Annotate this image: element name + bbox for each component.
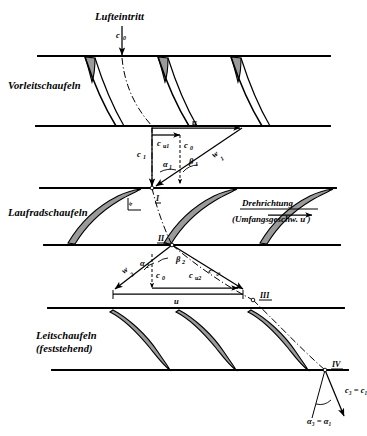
inlet-annotation: Lufteintritt c 0 <box>94 11 145 55</box>
streamline-segment-inlet <box>122 58 152 126</box>
triangle2-cu2-subscript: u2 <box>195 275 201 281</box>
label-leitschaufeln: Leitschaufeln <box>35 330 97 341</box>
triangle2-beta-arc <box>158 258 168 262</box>
triangle2-c0-subscript: 0 <box>162 275 165 281</box>
station-label-II: II <box>157 234 165 243</box>
stator-blade <box>176 310 236 370</box>
exit-c3-label: c₃ = c₁ <box>345 385 367 395</box>
inlet-guide-vane <box>231 57 270 126</box>
exit-velocity-annotation: c₃ = c₁ α₃ = α₁ <box>307 370 367 426</box>
exit-angle-arc <box>316 400 331 404</box>
label-leitschaufeln-feststehend: (feststehend) <box>36 343 93 355</box>
stator-blade-row <box>110 310 308 370</box>
triangle2-beta-label: β <box>175 254 181 264</box>
stator-blade <box>110 310 170 370</box>
streamline-segment-stator <box>253 300 325 370</box>
inlet-guide-vane <box>85 57 124 126</box>
triangle2-u-label: u <box>174 296 179 306</box>
triangle1-beta-label: β <box>188 156 194 166</box>
triangle2-c2-vector <box>172 245 243 289</box>
inlet-velocity-subscript: 0 <box>123 35 126 41</box>
triangle1-c1-label: c <box>137 149 141 159</box>
triangle2-alpha-label: α <box>140 258 145 268</box>
station-label-I: I <box>155 194 160 203</box>
inlet-guide-vane-row <box>85 57 270 126</box>
exit-c3-vector <box>325 370 344 416</box>
triangle1-c0-subscript: 0 <box>190 145 193 151</box>
triangle1-cu1-label: c <box>157 138 161 148</box>
triangle1-alpha-label: α <box>163 159 168 169</box>
triangle2-beta-subscript: 2 <box>181 259 185 265</box>
exit-angle-label: α₃ = α₁ <box>307 416 331 426</box>
triangle2-c0-label: c <box>156 270 160 280</box>
station-label-III: III <box>259 291 270 300</box>
inlet-label: Lufteintritt <box>94 11 145 22</box>
stator-blade <box>248 310 308 370</box>
station-label-IV: IV <box>331 360 341 369</box>
triangle1-c0-label: c <box>184 140 188 150</box>
inlet-velocity-label: c <box>116 30 120 40</box>
triangle1-w1-subscript: 1 <box>219 155 225 162</box>
label-vorleitschaufeln: Vorleitschaufeln <box>8 80 81 91</box>
triangle1-beta-subscript: 1 <box>195 161 198 167</box>
velocity-triangle-1: u c u1 c 0 c 1 w 1 α 1 β 1 <box>137 117 242 186</box>
triangle1-cu1-subscript: u1 <box>163 143 169 149</box>
row-labels: Vorleitschaufeln Laufradschaufeln Leitsc… <box>7 80 97 355</box>
triangle1-w1-label: w <box>210 148 221 160</box>
rotation-direction-label: Drehrichtung <box>241 198 294 208</box>
triangle2-cu2-label: c <box>189 270 193 280</box>
rotor-incidence-angle: α <box>127 198 141 210</box>
triangle1-alpha-arc <box>160 169 176 172</box>
label-laufradschaufeln: Laufradschaufeln <box>7 207 88 218</box>
triangle2-alpha-subscript: 2 <box>145 263 149 269</box>
compressor-stage-diagram: α Lufteintritt c 0 Vorleitschaufeln Lauf… <box>0 0 367 436</box>
rotor-blade <box>164 189 237 244</box>
triangle1-c1-subscript: 1 <box>143 154 146 160</box>
triangle1-alpha-subscript: 1 <box>169 164 172 170</box>
triangle1-w1-vector <box>156 128 242 186</box>
velocity-triangle-2: w 2 c 2 c 0 c u2 u β 2 α 2 <box>113 245 243 306</box>
inlet-guide-vane <box>158 57 197 126</box>
exit-reference-line <box>312 370 325 418</box>
triangle1-u-label: u <box>192 117 197 127</box>
station-marker-III: III <box>251 291 272 302</box>
